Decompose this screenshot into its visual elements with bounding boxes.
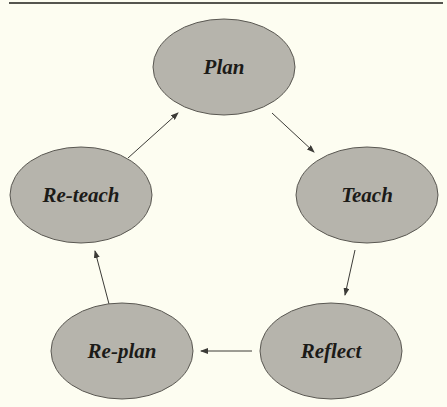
arrow-re-plan-to-re-teach — [95, 251, 109, 304]
arrow-re-teach-to-plan — [128, 113, 178, 158]
node-plan: Plan — [153, 19, 295, 115]
nodes: PlanTeachReflectRe-planRe-teach — [10, 19, 438, 399]
node-label: Teach — [341, 183, 393, 207]
cycle-diagram: PlanTeachReflectRe-planRe-teach — [0, 0, 447, 407]
node-label: Plan — [203, 55, 245, 79]
node-label: Re-plan — [87, 339, 157, 363]
node-re-plan: Re-plan — [51, 303, 193, 399]
arrow-plan-to-teach — [272, 113, 314, 152]
node-label: Reflect — [300, 339, 363, 363]
arrow-teach-to-reflect — [345, 250, 355, 295]
node-label: Re-teach — [42, 183, 120, 207]
node-reflect: Reflect — [260, 303, 402, 399]
node-re-teach: Re-teach — [10, 147, 152, 243]
node-teach: Teach — [296, 147, 438, 243]
